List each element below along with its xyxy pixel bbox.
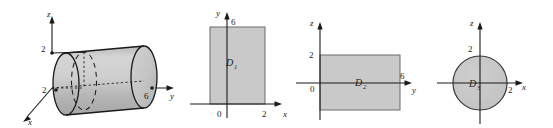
point-x2 [54,88,58,92]
tick-y-6-d1: 6 [231,17,236,27]
tick-z-2-d3: 2 [468,44,473,54]
region-label-d1: D [225,57,234,68]
tick-z-2: 2 [41,44,46,54]
tick-y-6: 6 [144,91,149,101]
tick-origin-d2: 0 [310,84,315,94]
axis-z [49,16,54,53]
panel-solid: z y x 2 2 6 [23,9,174,127]
region-label-d2: D [354,77,363,88]
math-figure-svg: z y x 2 2 6 y x 6 0 2 D 1 [0,0,553,128]
tick-z-2-d2: 2 [309,50,314,60]
tick-x-2-d1: 2 [262,109,267,119]
axis-label-x-d3: x [521,82,526,92]
axis-label-y-d1: y [215,8,220,18]
axis-label-x-d1: x [282,109,287,119]
point-z2 [50,51,54,55]
panel-d2: z y 2 0 6 D 2 [296,18,416,120]
tick-x-2: 2 [42,85,47,95]
region-sub-d1: 1 [234,63,237,70]
axis-label-z: z [46,9,51,19]
axis-label-x: x [27,117,32,127]
region-label-d3: D [468,78,477,89]
axis-label-y: y [169,91,174,101]
tick-origin-d1: 0 [217,109,222,119]
figure-container: z y x 2 2 6 y x 6 0 2 D 1 [0,0,553,128]
point-y6 [150,86,154,90]
axis-label-z-d2: z [309,18,314,28]
axis-label-z-d3: z [469,18,474,28]
region-d1 [210,27,265,104]
axis-label-y-d2: y [411,85,416,95]
panel-d3: z x 2 2 D 3 [437,18,526,124]
tick-x-2-d3: 2 [508,85,513,95]
panel-d1: y x 6 0 2 D 1 [190,8,287,119]
tick-y-6-d2: 6 [400,71,405,81]
